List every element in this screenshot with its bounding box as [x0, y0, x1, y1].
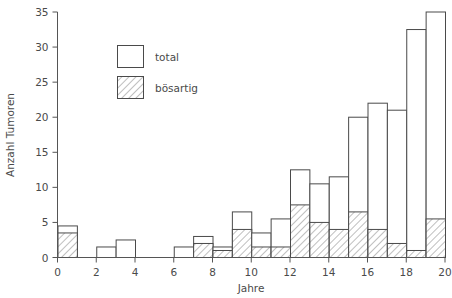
y-tick-label: 25	[35, 76, 48, 88]
y-axis-title: Anzahl Tumoren	[4, 93, 16, 177]
bar-group	[116, 240, 135, 258]
bar-group	[232, 212, 251, 258]
bar-group	[426, 12, 445, 258]
y-tick-label: 5	[42, 216, 49, 228]
bar-group	[252, 233, 271, 258]
x-tick-label: 0	[54, 266, 61, 278]
x-axis-title: Jahre	[237, 282, 265, 294]
bar-total	[174, 247, 193, 258]
x-tick-label: 10	[245, 266, 258, 278]
bar-group	[271, 219, 290, 258]
bar-boesartig	[387, 243, 406, 257]
bar-group	[97, 247, 116, 258]
bar-total	[407, 30, 426, 258]
x-tick-label: 8	[209, 266, 216, 278]
bar-boesartig	[271, 247, 290, 258]
bar-boesartig	[252, 247, 271, 258]
y-tick-label: 10	[35, 181, 48, 193]
bar-group	[213, 247, 232, 258]
legend-swatch-boesartig	[118, 77, 144, 99]
bar-total	[387, 110, 406, 257]
legend-swatch-total	[118, 46, 144, 68]
bar-boesartig	[232, 229, 251, 257]
x-tick-label: 16	[361, 266, 375, 278]
x-tick-label: 2	[93, 266, 100, 278]
bar-boesartig	[194, 243, 213, 257]
y-tick-label: 30	[35, 41, 48, 53]
bar-boesartig	[291, 205, 310, 258]
bar-group	[349, 117, 368, 257]
bar-boesartig	[58, 233, 77, 258]
bar-group	[58, 226, 77, 258]
bar-total	[116, 240, 135, 258]
bar-boesartig	[310, 222, 329, 257]
bar-group	[407, 30, 426, 258]
legend-label-total: total	[155, 51, 179, 63]
x-tick-label: 20	[438, 266, 451, 278]
chart-canvas: 05101520253035 02468101214161820 Jahre A…	[0, 0, 452, 298]
bar-boesartig	[329, 229, 348, 257]
y-tick-label: 35	[35, 6, 48, 18]
y-tick-label: 20	[35, 111, 48, 123]
bar-group	[387, 110, 406, 257]
x-tick-label: 4	[132, 266, 139, 278]
bar-group	[368, 103, 387, 257]
bar-group	[291, 170, 310, 258]
bar-boesartig	[349, 212, 368, 258]
bar-boesartig	[407, 250, 426, 257]
bar-boesartig	[426, 219, 445, 258]
bar-group	[174, 247, 193, 258]
y-tick-label: 15	[35, 146, 48, 158]
x-tick-label: 14	[322, 266, 336, 278]
bar-boesartig	[368, 229, 387, 257]
x-tick-label: 12	[283, 266, 296, 278]
bar-group	[329, 177, 348, 258]
x-tick-label: 18	[400, 266, 413, 278]
y-tick-label: 0	[42, 252, 49, 264]
bar-boesartig	[213, 250, 232, 257]
bar-group	[310, 184, 329, 258]
tumor-histogram-figure: 05101520253035 02468101214161820 Jahre A…	[0, 0, 452, 298]
bar-group	[194, 236, 213, 257]
bar-total	[97, 247, 116, 258]
x-tick-label: 6	[170, 266, 177, 278]
legend-label-boesartig: bösartig	[155, 82, 198, 94]
